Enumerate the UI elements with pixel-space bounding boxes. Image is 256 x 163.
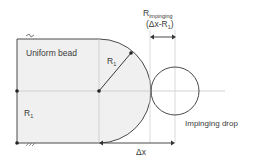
uniform-bead-label: Uniform bead [26,48,77,58]
arc-center-dot [97,89,101,93]
radius-end-dot [129,51,133,55]
impinging-expression-label: (Δx-R1) [146,19,174,30]
impinging-radius-label: Rimpinging [143,8,173,19]
bead-diagram: Uniform bead R1 R1 Rimpinging (Δx-R1) Im… [0,0,256,163]
left-mid-dot [15,89,19,93]
break-mark-top [26,34,34,37]
impinging-drop-label: Impinging drop [185,119,238,128]
arrow-head-left-icon [150,35,154,40]
dx-label: Δx [136,147,147,157]
dx-arrow-head-right-icon [171,141,175,146]
left-bottom-dot [15,141,19,145]
